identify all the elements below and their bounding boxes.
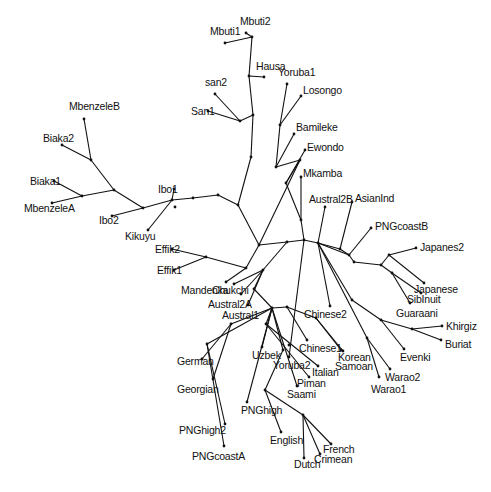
taxon-label: MbenzeleB	[69, 100, 120, 112]
taxon-label: Evenki	[400, 351, 430, 363]
tree-edge	[234, 270, 263, 284]
taxon-label: PNGcoastB	[375, 220, 428, 232]
taxon-label: MbenzeleA	[24, 202, 75, 214]
taxon-label: Japanes2	[420, 241, 464, 253]
tree-node	[282, 349, 285, 352]
tree-node	[212, 378, 215, 381]
tree-node	[206, 343, 209, 346]
tree-node	[306, 339, 309, 342]
taxon-label: Ibo1	[158, 183, 178, 195]
taxon-label: Samoan	[335, 360, 373, 372]
tree-edge	[254, 270, 263, 289]
taxon-label: Ibo2	[99, 214, 119, 226]
tree-node	[252, 114, 255, 117]
tree-edge	[91, 160, 114, 190]
tree-edge	[412, 326, 442, 329]
tree-edge	[249, 76, 253, 115]
taxon-label: Chinese1	[299, 342, 342, 354]
tree-node	[81, 195, 84, 198]
tree-edge	[206, 257, 246, 268]
taxon-label: Losongo	[303, 84, 342, 96]
taxon-label: Effik1	[157, 264, 182, 276]
taxon-label: SibInuit	[407, 293, 441, 305]
tree-edge	[148, 200, 172, 230]
tree-node	[245, 32, 248, 35]
tree-edge	[381, 320, 412, 329]
tree-node	[378, 376, 381, 379]
taxon-label: German	[177, 355, 214, 367]
tree-node	[263, 76, 266, 79]
taxon-label: PNGhigh	[241, 404, 283, 416]
tree-node	[279, 124, 282, 127]
tree-edge	[82, 190, 114, 196]
taxon-label: Uzbek	[252, 349, 282, 361]
tree-edge	[303, 415, 331, 444]
taxon-label: PNGhigh2	[179, 424, 226, 436]
tree-node	[317, 242, 320, 245]
tree-node	[411, 328, 414, 331]
taxon-label: Austral1	[222, 309, 259, 321]
taxon-label: Dutch	[294, 458, 321, 470]
tree-edge	[218, 195, 238, 205]
tree-edge	[272, 308, 283, 350]
tree-node	[380, 319, 383, 322]
tree-edge	[287, 240, 304, 242]
tree-node	[248, 75, 251, 78]
taxon-label: Yoruba1	[278, 66, 316, 78]
tree-node	[300, 176, 303, 179]
taxon-label: Saami	[287, 388, 316, 400]
tree-node	[304, 149, 307, 152]
tree-edge	[246, 245, 259, 268]
tree-edge	[381, 320, 404, 349]
tree-edge	[272, 307, 287, 308]
tree-node	[250, 156, 253, 159]
taxon-label: PNGcoastA	[192, 450, 245, 462]
tree-edge	[303, 415, 320, 454]
tree-node	[415, 247, 418, 250]
tree-node	[237, 204, 240, 207]
tree-node	[214, 93, 217, 96]
tree-node	[288, 344, 291, 347]
tree-node	[441, 325, 444, 328]
tree-edge	[249, 37, 252, 76]
tree-node	[280, 431, 283, 434]
tree-edge	[238, 157, 251, 205]
taxon-label: Guaraani	[396, 307, 438, 319]
taxon-label: san2	[205, 76, 227, 88]
tree-labels: Mbuti1Mbuti2Hausasan2San1Yoruba1LosongoB…	[24, 15, 477, 470]
taxon-label: Khirgiz	[446, 320, 477, 332]
tree-node	[366, 337, 369, 340]
tree-edge	[389, 255, 424, 283]
taxon-label: AsianInd	[355, 192, 395, 204]
tree-node	[286, 306, 289, 309]
tree-edge	[225, 37, 252, 43]
tree-node	[389, 368, 392, 371]
tree-node	[262, 269, 265, 272]
tree-edge	[340, 202, 352, 249]
tree-edge	[240, 115, 253, 121]
tree-node	[303, 239, 306, 242]
taxon-label: Kikuyu	[125, 230, 156, 242]
taxon-label: Chinese2	[304, 308, 347, 320]
tree-node	[300, 219, 303, 222]
tree-node	[113, 189, 116, 192]
tree-node	[61, 144, 64, 147]
tree-edge	[381, 255, 389, 265]
tree-node	[339, 248, 342, 251]
taxon-label: Effik2	[155, 243, 180, 255]
tree-node	[293, 133, 296, 136]
taxon-label: Ewondo	[307, 141, 344, 153]
tree-node	[388, 254, 391, 257]
tree-node	[205, 256, 208, 259]
taxon-label: Biaka2	[43, 132, 74, 144]
tree-node	[253, 288, 256, 291]
tree-edge	[389, 248, 416, 255]
tree-node	[251, 36, 254, 39]
tree-edge	[289, 240, 304, 357]
taxon-label: Bamileke	[296, 121, 338, 133]
tree-node	[246, 401, 249, 404]
taxon-label: Warao1	[371, 383, 407, 395]
phylogenetic-tree: Mbuti1Mbuti2Hausasan2San1Yoruba1LosongoB…	[0, 0, 491, 492]
taxon-label: Biaka1	[30, 175, 61, 187]
tree-node	[275, 166, 278, 169]
